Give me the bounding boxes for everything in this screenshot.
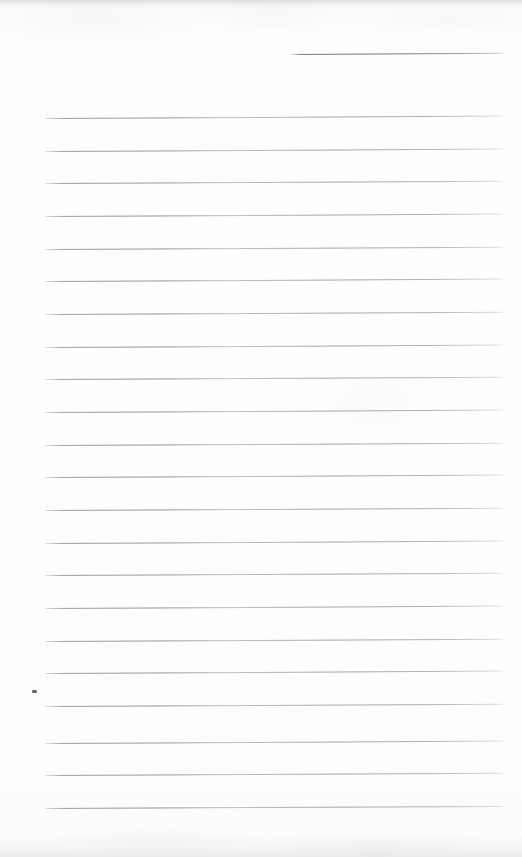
scanned-notebook-page <box>0 0 522 857</box>
paper-surface <box>0 0 522 857</box>
ink-speck-artifact <box>32 690 37 693</box>
